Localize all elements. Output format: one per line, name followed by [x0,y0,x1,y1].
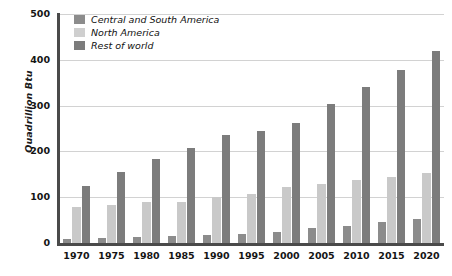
legend-item-label: Central and South America [91,14,219,25]
x-axis-tick-label: 1985 [164,250,199,261]
bar [152,159,160,243]
bar [168,236,176,243]
bar [432,51,440,243]
bar-group [343,14,370,243]
y-axis-tick-label: 400 [6,54,50,65]
bar [63,239,71,243]
bar [72,207,80,243]
bar [98,238,106,243]
bar [327,104,335,243]
legend: Central and South America North America … [74,13,219,52]
bar [413,219,421,243]
bar [422,173,430,243]
bar [257,131,265,243]
bar [107,205,115,243]
bar [212,197,220,243]
legend-swatch-icon [74,28,85,37]
legend-item: North America [74,26,219,38]
bar [317,184,325,243]
y-axis-tick-label: 100 [6,191,50,202]
x-axis-tick-label: 2010 [339,250,374,261]
bar [343,226,351,243]
bar [362,87,370,243]
bar [203,235,211,243]
bar-group [308,14,335,243]
bar [352,180,360,243]
bar-group [238,14,265,243]
x-axis-tick-label: 2015 [374,250,409,261]
bar-group [273,14,300,243]
legend-item-label: North America [91,27,160,38]
legend-item: Central and South America [74,13,219,25]
legend-swatch-icon [74,15,85,24]
bar [177,202,185,243]
bar [82,186,90,243]
bar [117,172,125,243]
legend-item: Rest of world [74,39,219,51]
bar-chart: Quadrillion Btu 0100200300400500 1970197… [0,0,452,276]
x-axis-tick-label: 1990 [199,250,234,261]
x-axis-tick-label: 1995 [234,250,269,261]
bar [387,177,395,243]
bar-group [413,14,440,243]
bar-group [378,14,405,243]
bar [247,194,255,243]
y-axis-tick-label: 300 [6,100,50,111]
bar [187,148,195,243]
bar [397,70,405,243]
bar [308,228,316,243]
bar [292,123,300,243]
bar [142,202,150,243]
legend-swatch-icon [74,41,85,50]
y-axis-tick-label: 500 [6,8,50,19]
bar [378,222,386,243]
x-axis-tick-label: 2000 [269,250,304,261]
bar [238,234,246,243]
x-axis-tick-label: 1970 [59,250,94,261]
bar [282,187,290,243]
bar [222,135,230,243]
x-axis-tick-label: 1980 [129,250,164,261]
legend-item-label: Rest of world [91,40,153,51]
y-axis-tick-label: 0 [6,237,50,248]
x-axis-tick-label: 2005 [304,250,339,261]
bar [273,232,281,243]
x-axis-tick-label: 2020 [409,250,444,261]
x-axis-line [57,243,444,246]
x-axis-tick-label: 1975 [94,250,129,261]
y-axis-tick-label: 200 [6,145,50,156]
bar [133,237,141,243]
